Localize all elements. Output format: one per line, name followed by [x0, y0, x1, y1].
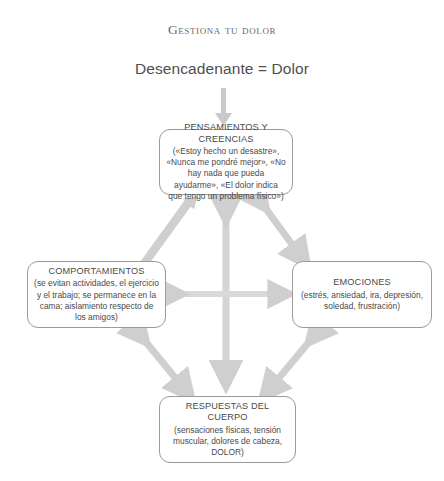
node-body-responses[interactable]: RESPUESTAS DEL CUERPO (sensaciones físic… [159, 396, 296, 463]
arrow-trigger-to-thoughts [215, 88, 232, 126]
node-behaviors-title: COMPORTAMIENTOS [48, 266, 144, 278]
arrow-thoughts-emotions [261, 202, 302, 258]
node-behaviors[interactable]: COMPORTAMIENTOS (se evitan actividades, … [27, 261, 166, 328]
arrow-behaviors-body [141, 336, 186, 391]
node-body-responses-body: (sensaciones físicas, tensión muscular, … [166, 425, 289, 459]
diagram-canvas: Gestiona tu dolor Desencadenante = Dolor [0, 0, 444, 481]
node-emotions[interactable]: EMOCIONES (estrés, ansiedad, ira, depres… [292, 261, 432, 328]
node-behaviors-body: (se evitan actividades, el ejercicio y e… [34, 278, 159, 323]
node-emotions-body: (estrés, ansiedad, ira, depresión, soled… [299, 290, 425, 312]
node-thoughts[interactable]: PENSAMIENTOS Y CREENCIAS («Estoy hecho u… [159, 129, 293, 195]
node-body-responses-title: RESPUESTAS DEL CUERPO [166, 401, 289, 424]
node-thoughts-title: PENSAMIENTOS Y CREENCIAS [166, 122, 286, 145]
node-thoughts-body: («Estoy hecho un desastre», «Nunca me po… [166, 146, 286, 202]
arrow-emotions-body [268, 336, 314, 391]
node-emotions-title: EMOCIONES [333, 277, 391, 289]
